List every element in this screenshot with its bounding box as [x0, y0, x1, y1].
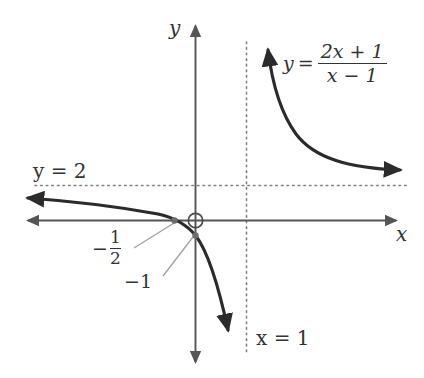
equation-denominator: x − 1: [324, 64, 381, 86]
x-intercept-leader-line: [134, 223, 174, 248]
y-axis-label: y: [169, 18, 180, 38]
x-intercept-denominator: 2: [110, 250, 121, 268]
x-intercept-label: − 1 2: [92, 229, 121, 268]
x-axis-label: x: [396, 224, 407, 244]
y-intercept-point: [192, 232, 198, 238]
x-intercept-point: [171, 217, 177, 223]
rational-function-graph: y x y = 2 x = 1 y = 2x + 1 x − 1 − 1 2 −…: [0, 0, 424, 378]
y-intercept-label: −1: [124, 272, 152, 291]
vertical-asymptote-label: x = 1: [256, 328, 309, 348]
curve-left-branch: [28, 198, 228, 330]
equation-numerator: 2x + 1: [318, 41, 387, 63]
x-intercept-fraction: 1 2: [110, 229, 121, 268]
x-intercept-minus-sign: −: [92, 239, 108, 258]
x-intercept-numerator: 1: [110, 229, 121, 247]
equation-label: y = 2x + 1 x − 1: [283, 41, 387, 86]
horizontal-asymptote-label: y = 2: [33, 161, 87, 181]
y-intercept-leader-line: [163, 237, 193, 276]
equation-equals: =: [298, 54, 314, 73]
equation-lhs: y: [283, 54, 294, 73]
equation-fraction: 2x + 1 x − 1: [318, 41, 387, 86]
